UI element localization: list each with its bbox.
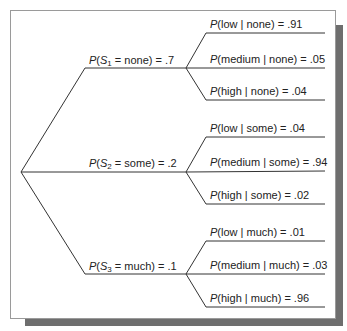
label-s3-medium: P(medium | much) = .03 <box>210 259 328 272</box>
label-s1: P(S1 = none) = .7 <box>89 54 174 67</box>
branch-s3 <box>21 172 186 274</box>
label-s2: P(S2 = some) = .2 <box>89 157 177 170</box>
label-s3-high: P(high | much) = .96 <box>210 292 309 305</box>
label-s2-low: P(low | some) = .04 <box>210 122 305 135</box>
label-s1-medium: P(medium | none) = .05 <box>210 53 325 66</box>
label-s1-high: P(high | none) = .04 <box>210 85 307 98</box>
leaf-s2-medium <box>186 171 325 172</box>
label-s3-low: P(low | much) = .01 <box>210 226 305 239</box>
label-s2-high: P(high | some) = .02 <box>210 189 309 202</box>
label-s3: P(S3 = much) = .1 <box>89 260 177 273</box>
label-s2-medium: P(medium | some) = .94 <box>210 156 328 169</box>
label-s1-low: P(low | none) = .91 <box>210 18 302 31</box>
